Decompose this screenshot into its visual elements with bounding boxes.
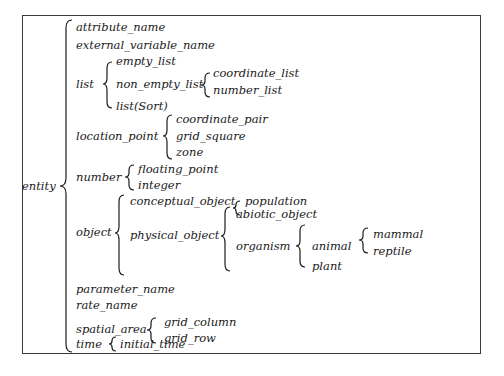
brace-entity bbox=[60, 20, 72, 352]
node-entity: entity bbox=[22, 181, 56, 193]
node-non-empty-list: non_empty_list bbox=[116, 79, 203, 91]
node-reptile: reptile bbox=[373, 246, 411, 258]
node-list: list bbox=[76, 79, 94, 91]
brace-organism bbox=[296, 225, 305, 267]
node-grid-column: grid_column bbox=[164, 317, 236, 329]
node-mammal: mammal bbox=[373, 229, 423, 241]
node-plant: plant bbox=[312, 261, 342, 273]
node-floating-point: floating_point bbox=[138, 164, 218, 176]
node-population: population bbox=[245, 196, 307, 208]
node-grid-square: grid_square bbox=[176, 131, 245, 143]
node-coordinate-pair: coordinate_pair bbox=[176, 114, 268, 126]
brace-object bbox=[115, 195, 124, 275]
node-abiotic-object: abiotic_object bbox=[236, 209, 317, 221]
node-organism: organism bbox=[236, 241, 291, 253]
node-location-point: location_point bbox=[76, 131, 158, 143]
node-empty-list: empty_list bbox=[116, 56, 176, 68]
node-coordinate-list: coordinate_list bbox=[213, 68, 299, 80]
node-number-list: number_list bbox=[213, 85, 282, 97]
node-conceptual-object: conceptual_object bbox=[130, 196, 235, 208]
node-time: time bbox=[76, 339, 102, 351]
brace-location-point bbox=[163, 115, 172, 159]
brace-physical-object bbox=[221, 207, 230, 271]
node-number: number bbox=[76, 172, 121, 184]
brace-list bbox=[103, 62, 112, 108]
braces-layer bbox=[0, 0, 504, 376]
brace-time bbox=[109, 337, 116, 351]
node-attribute-name: attribute_name bbox=[76, 22, 165, 34]
node-physical-object: physical_object bbox=[130, 230, 219, 242]
node-list-sort: list(Sort) bbox=[116, 101, 168, 113]
brace-number bbox=[125, 165, 134, 190]
node-spatial-area: spatial_area bbox=[76, 324, 147, 336]
node-object: object bbox=[76, 227, 112, 239]
node-external-variable-name: external_variable_name bbox=[76, 40, 215, 52]
node-zone: zone bbox=[176, 147, 203, 159]
node-rate-name: rate_name bbox=[76, 300, 138, 312]
node-integer: integer bbox=[138, 180, 180, 192]
node-initial-time: initial_time bbox=[120, 339, 185, 351]
brace-animal bbox=[359, 228, 368, 253]
node-parameter-name: parameter_name bbox=[76, 284, 175, 296]
node-animal: animal bbox=[312, 241, 351, 253]
